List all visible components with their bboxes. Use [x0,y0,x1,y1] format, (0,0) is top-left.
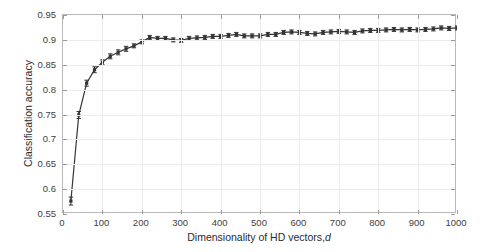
y-axis-tick-right [451,139,455,140]
y-axis-title: Classification accuracy [22,14,36,213]
gridline-horizontal [63,90,455,91]
x-axis-tick-top [378,15,379,19]
gridline-vertical [418,15,419,212]
y-axis-tick [63,139,67,140]
y-axis-tick-right [451,65,455,66]
gridline-vertical [102,15,103,212]
gridline-vertical [378,15,379,212]
x-axis-tick-top [102,15,103,19]
x-tick-label: 700 [330,217,346,228]
x-tick-label: 200 [133,217,149,228]
y-axis-tick [63,90,67,91]
y-axis-tick-right [451,115,455,116]
x-axis-tick-top [181,15,182,19]
x-axis-title-variable: d [325,231,331,243]
x-axis-tick-top [457,15,458,19]
x-axis-tick-top [221,15,222,19]
gridline-vertical [181,15,182,212]
x-axis-tick-top [418,15,419,19]
gridline-horizontal [63,115,455,116]
gridline-horizontal [63,65,455,66]
x-tick-label: 400 [212,217,228,228]
gridline-vertical [339,15,340,212]
x-axis-tick [102,210,103,214]
x-axis-tick [142,210,143,214]
y-axis-tick [63,164,67,165]
y-axis-tick [63,115,67,116]
gridline-vertical [142,15,143,212]
y-axis-tick-right [451,40,455,41]
x-axis-tick [181,210,182,214]
x-axis-tick [378,210,379,214]
y-axis-tick-right [451,189,455,190]
y-axis-tick [63,65,67,66]
gridline-vertical [260,15,261,212]
x-tick-label: 300 [172,217,188,228]
y-axis-tick-right [451,90,455,91]
gridline-horizontal [63,40,455,41]
y-axis-tick-right [451,15,455,16]
x-tick-label: 1000 [445,217,466,228]
x-axis-tick-top [260,15,261,19]
x-axis-tick-top [339,15,340,19]
gridline-horizontal [63,139,455,140]
y-axis-tick-right [451,164,455,165]
gridline-horizontal [63,189,455,190]
y-axis-tick [63,40,67,41]
chart-figure: 01002003004005006007008009001000 0.550.6… [0,0,482,252]
x-tick-label: 100 [93,217,109,228]
x-tick-label: 900 [409,217,425,228]
x-tick-label: 500 [251,217,267,228]
x-axis-title-text: Dimensionality of HD vectors, [187,231,325,243]
x-axis-tick [339,210,340,214]
y-axis-tick [63,189,67,190]
gridline-vertical [221,15,222,212]
y-axis-tick [63,214,67,215]
x-axis-tick [457,210,458,214]
y-axis-tick [63,15,67,16]
y-axis-tick-right [451,214,455,215]
gridline-vertical [299,15,300,212]
gridline-horizontal [63,164,455,165]
x-tick-label: 0 [59,217,64,228]
x-axis-tick [299,210,300,214]
x-axis-tick [260,210,261,214]
x-axis-title: Dimensionality of HD vectors,d [62,231,456,243]
x-tick-label: 800 [369,217,385,228]
x-tick-label: 600 [290,217,306,228]
plot-area [62,14,456,213]
x-axis-tick [418,210,419,214]
x-axis-tick-top [299,15,300,19]
x-axis-tick [221,210,222,214]
x-axis-tick-top [142,15,143,19]
